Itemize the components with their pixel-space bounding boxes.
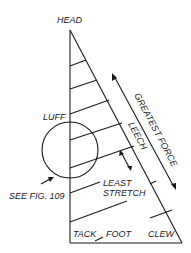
seam-2 <box>70 80 97 89</box>
label-luff: LUFF <box>43 112 66 122</box>
seam-3 <box>70 100 109 114</box>
greatest-force-arrow <box>112 73 176 190</box>
label-stretch: STRETCH <box>103 188 146 198</box>
seam-7a <box>70 201 127 222</box>
label-head: HEAD <box>57 15 83 25</box>
seam-6a <box>70 182 100 193</box>
seam-5 <box>70 146 134 168</box>
seam-6b <box>150 181 156 184</box>
seam-1 <box>70 60 86 66</box>
panel-seams <box>70 60 172 241</box>
seam-4 <box>70 123 122 140</box>
label-see-fig: SEE FIG. 109 <box>9 191 65 201</box>
label-tack: TACK <box>73 229 97 239</box>
least-stretch-arrow <box>119 150 132 171</box>
sail-diagram: HEAD LUFF GREATEST FORCE LEECH LEAST STR… <box>0 0 191 253</box>
see-fig-arrow <box>41 177 54 184</box>
label-foot: FOOT <box>106 229 132 239</box>
label-clew: CLEW <box>148 229 176 239</box>
label-least: LEAST <box>103 178 133 188</box>
